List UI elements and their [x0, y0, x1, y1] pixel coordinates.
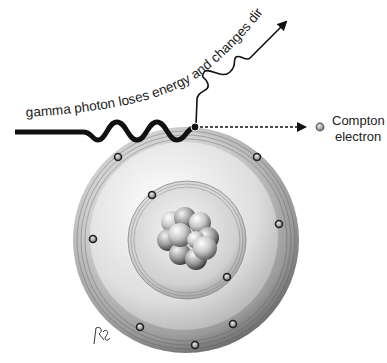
artist-signature	[94, 327, 110, 344]
atom	[73, 127, 299, 353]
electron	[90, 236, 97, 243]
compton-electron-icon	[316, 123, 324, 131]
electron	[276, 221, 283, 228]
impact-electron	[191, 123, 199, 131]
compton-diagram: gamma photon loses energy and changes di…	[0, 0, 387, 363]
photon-caption: gamma photon loses energy and changes di…	[0, 0, 266, 120]
compton-label-line1: Compton	[332, 113, 385, 128]
electron	[224, 274, 231, 281]
electron	[192, 342, 199, 349]
compton-label-line2: electron	[335, 129, 381, 144]
electron	[254, 154, 261, 161]
electron	[149, 192, 156, 199]
electron	[230, 321, 237, 328]
electron	[115, 154, 122, 161]
electron	[137, 324, 144, 331]
